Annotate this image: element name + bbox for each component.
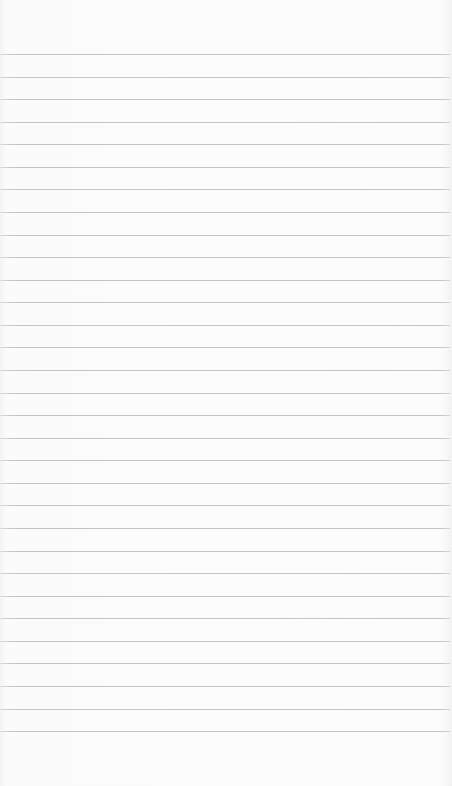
ruled-line (0, 257, 450, 258)
ruled-line (0, 280, 450, 281)
ruled-line (0, 144, 450, 145)
ruled-page (0, 0, 452, 786)
ruled-line (0, 370, 450, 371)
ruled-line (0, 438, 450, 439)
ruled-line (0, 596, 450, 597)
ruled-line (0, 122, 450, 123)
ruled-line (0, 325, 450, 326)
ruled-line (0, 167, 450, 168)
ruled-line (0, 347, 450, 348)
ruled-line (0, 641, 450, 642)
ruled-line (0, 212, 450, 213)
ruled-line (0, 573, 450, 574)
ruled-line (0, 99, 450, 100)
ruled-line (0, 686, 450, 687)
ruled-line (0, 460, 450, 461)
ruled-line (0, 663, 450, 664)
ruled-line (0, 235, 450, 236)
ruled-line (0, 393, 450, 394)
ruled-line (0, 302, 450, 303)
ruled-line (0, 551, 450, 552)
ruled-line (0, 528, 450, 529)
ruled-line (0, 731, 450, 732)
ruled-line (0, 618, 450, 619)
ruled-line (0, 189, 450, 190)
ruled-line (0, 483, 450, 484)
ruled-line (0, 77, 450, 78)
ruled-line (0, 505, 450, 506)
ruled-line (0, 415, 450, 416)
ruled-line (0, 54, 450, 55)
ruled-line (0, 709, 450, 710)
